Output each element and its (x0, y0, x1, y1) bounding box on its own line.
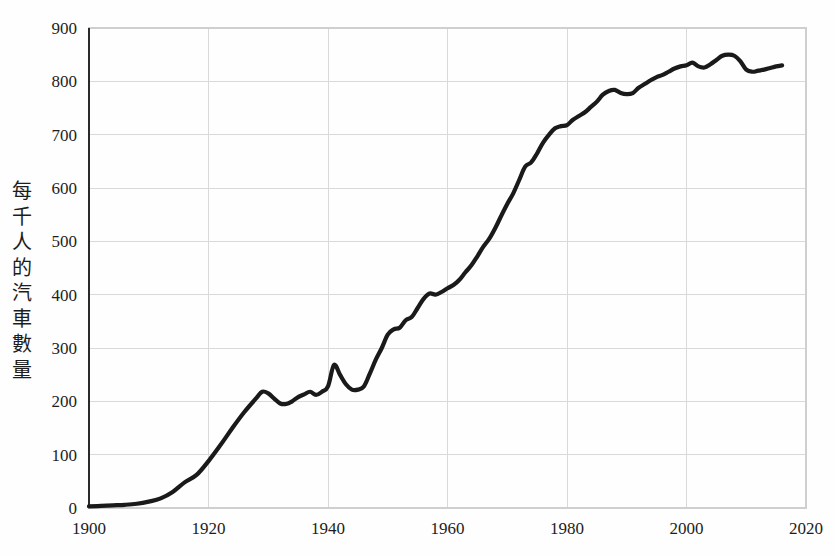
ytick-900: 900 (52, 19, 78, 38)
ytick-200: 200 (52, 392, 78, 411)
y-axis-title: 每千人的汽車數量 (12, 179, 32, 382)
y-axis-title-char: 的 (12, 256, 32, 280)
ytick-700: 700 (52, 126, 78, 145)
y-axis-title-char: 汽 (12, 281, 32, 305)
xtick-2020: 2020 (789, 519, 823, 538)
y-axis-title-char: 量 (12, 358, 32, 382)
xtick-1900: 1900 (72, 519, 106, 538)
xtick-1960: 1960 (431, 519, 465, 538)
y-axis-title-char: 車 (12, 307, 32, 331)
ytick-500: 500 (52, 232, 78, 251)
ytick-600: 600 (52, 179, 78, 198)
xtick-1920: 1920 (192, 519, 226, 538)
xtick-1980: 1980 (550, 519, 584, 538)
chart-background (0, 0, 835, 556)
line-chart: 0100200300400500600700800900 19001920194… (0, 0, 835, 556)
ytick-300: 300 (52, 339, 78, 358)
ytick-800: 800 (52, 72, 78, 91)
ytick-0: 0 (69, 499, 78, 518)
y-axis-title-char: 千 (12, 205, 32, 229)
xtick-2000: 2000 (670, 519, 704, 538)
xtick-1940: 1940 (311, 519, 345, 538)
y-axis-title-char: 每 (12, 179, 32, 203)
ytick-400: 400 (52, 286, 78, 305)
ytick-100: 100 (52, 446, 78, 465)
y-axis-title-char: 人 (12, 230, 32, 254)
y-axis-title-char: 數 (12, 332, 32, 356)
chart-container: 0100200300400500600700800900 19001920194… (0, 0, 835, 556)
